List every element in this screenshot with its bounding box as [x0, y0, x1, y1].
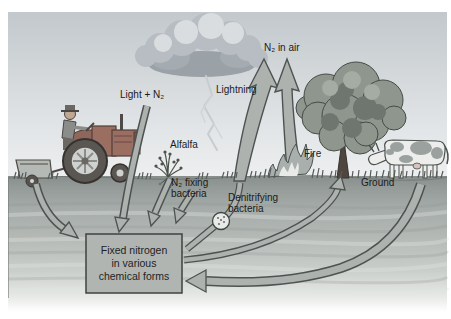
fixed-nitrogen-box-text: Fixed nitrogen in various chemical forms: [86, 234, 182, 293]
label-n2-fixing-bacteria: N₂ fixing bacteria: [171, 177, 208, 199]
denitrifying-bacteria-ball: [213, 213, 230, 230]
fixed-nitrogen-line-1: Fixed nitrogen: [101, 244, 168, 257]
label-alfalfa: Alfalfa: [170, 139, 198, 150]
label-fire: Fire: [304, 148, 321, 159]
label-light-n2: Light + N₂: [120, 89, 164, 100]
scene-canvas: [0, 0, 451, 319]
nitrogen-cycle-diagram: Light + N₂ Lightning N₂ in air Alfalfa F…: [0, 0, 451, 319]
label-lightning: Lightning: [216, 84, 257, 95]
label-denitrifying-bacteria: Denitrifying bacteria: [228, 192, 278, 214]
fixed-nitrogen-line-3: chemical forms: [99, 270, 170, 283]
label-n2-in-air: N₂ in air: [264, 42, 300, 53]
label-ground: Ground: [361, 177, 394, 188]
fixed-nitrogen-line-2: in various: [112, 257, 157, 270]
